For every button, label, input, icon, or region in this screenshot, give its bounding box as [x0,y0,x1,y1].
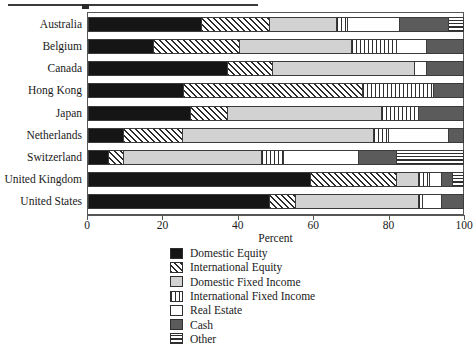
bar-segment [422,195,441,208]
bar-segment [89,18,201,31]
y-axis-label: Hong Kong [0,84,82,97]
x-axis-tick-label: 60 [307,219,319,232]
bar-segment [153,40,239,53]
legend-item: Cash [170,317,420,331]
legend-item: Other [170,332,420,346]
bar-segment [418,173,429,186]
legend-item-label: Domestic Equity [190,247,268,259]
swatch-vertical-stripes [170,291,183,302]
bar-row [88,61,464,76]
bar-segment [452,173,463,186]
x-axis-tick-label: 100 [455,219,472,232]
bar-segment [227,62,272,75]
y-axis-label: Japan [0,107,82,120]
bar-segment [351,40,396,53]
bar-segment [227,107,380,120]
bar-segment [358,151,395,164]
bar-row [88,17,464,32]
bar-segment [190,107,227,120]
bar-segment [239,40,351,53]
swatch-solid-black [170,248,183,259]
swatch-white [170,305,183,316]
x-axis-tick-label: 80 [383,219,395,232]
swatch-diagonal-hatch [170,262,183,273]
bar-segment [441,173,452,186]
legend-item-label: Real Estate [190,304,242,316]
y-axis-label: Canada [0,62,82,75]
bar-segment [426,40,463,53]
bar-segment [182,129,373,142]
bar-segment [414,62,425,75]
bar-segment [396,40,426,53]
bar-row [88,194,464,209]
legend-item: International Fixed Income [170,289,420,303]
x-axis-tick-label: 20 [157,219,169,232]
bar-segment [269,18,336,31]
legend-item: Real Estate [170,303,420,317]
bar-segment [433,84,463,97]
figure-top-rule-tick [82,4,89,9]
bar-segment [396,151,463,164]
bar-segment [396,173,418,186]
legend-item-label: International Fixed Income [190,290,315,302]
bar-segment [381,107,418,120]
bar-row [88,39,464,54]
bar-segment [269,195,295,208]
stacked-bar-plot-area [88,13,464,213]
bar-segment [448,18,463,31]
y-axis-label: Switzerland [0,151,82,164]
bar-segment [89,84,183,97]
y-axis-label: United Kingdom [0,173,82,186]
legend-item-label: Cash [190,319,213,331]
bar-segment [123,151,261,164]
bar-segment [347,18,399,31]
y-axis-label: United States [0,195,82,208]
legend-item-label: Domestic Fixed Income [190,276,301,288]
x-axis-tick-label: 40 [232,219,244,232]
bar-segment [123,129,183,142]
bar-segment [429,173,440,186]
bar-segment [399,18,448,31]
bar-segment [89,151,108,164]
swatch-dark-gray [170,319,183,330]
bar-segment [89,173,310,186]
bar-segment [108,151,123,164]
bar-segment [183,84,363,97]
x-axis-tick-label: 0 [84,219,90,232]
figure-top-rule [8,4,258,6]
bar-segment [441,195,463,208]
bar-segment [426,62,463,75]
bar-segment [201,18,268,31]
swatch-horizontal-stripes [170,333,183,344]
bar-segment [336,18,347,31]
y-axis-label: Netherlands [0,129,82,142]
y-axis-label: Australia [0,18,82,31]
bar-segment [373,129,388,142]
bar-segment [362,84,433,97]
y-axis-category-labels: AustraliaBelgiumCanadaHong KongJapanNeth… [0,13,82,213]
bar-row [88,128,464,143]
bar-segment [261,151,283,164]
bar-segment [89,40,153,53]
bar-row [88,150,464,165]
bar-segment [295,195,418,208]
bar-segment [388,129,448,142]
bar-segment [272,62,414,75]
bar-row [88,172,464,187]
legend: Domestic EquityInternational EquityDomes… [170,246,420,346]
legend-item-label: International Equity [190,261,282,273]
bar-segment [89,195,269,208]
bar-segment [448,129,463,142]
bar-row [88,83,464,98]
bar-segment [89,107,190,120]
legend-item: Domestic Fixed Income [170,275,420,289]
y-axis-label: Belgium [0,40,82,53]
bar-segment [283,151,358,164]
x-axis-line [87,215,464,216]
bar-segment [89,62,227,75]
bar-segment [418,107,463,120]
legend-item: International Equity [170,260,420,274]
x-axis-title: Percent [87,232,464,245]
swatch-light-gray [170,276,183,287]
legend-item: Domestic Equity [170,246,420,260]
